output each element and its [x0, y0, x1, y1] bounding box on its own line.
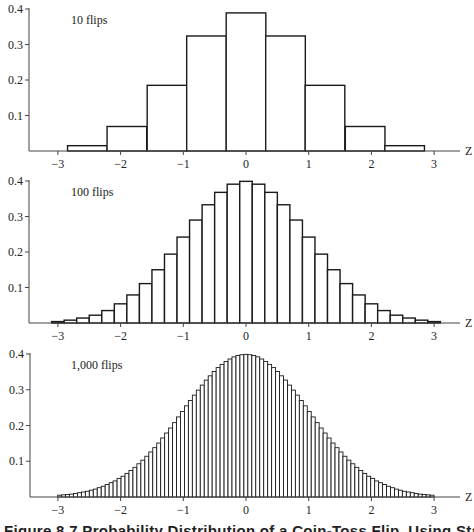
histogram-bar: [232, 357, 236, 497]
histogram-bar: [141, 460, 145, 497]
x-tick-label: 1: [306, 157, 312, 171]
y-tick-label: 0.3: [8, 38, 23, 52]
histogram-bar: [383, 484, 387, 497]
histogram-bar: [319, 428, 323, 497]
histogram-bar: [367, 476, 371, 497]
x-tick-label: 0: [243, 503, 249, 517]
x-axis-label: Z: [465, 144, 472, 158]
x-tick-label: −1: [177, 329, 190, 343]
histogram-bar: [340, 284, 353, 323]
histogram-bar: [244, 354, 248, 497]
histogram-bar: [266, 36, 306, 151]
bars: [52, 181, 441, 323]
histogram-bar: [169, 428, 173, 497]
histogram-bar: [137, 464, 141, 497]
histogram-bar: [240, 355, 244, 497]
y-tick-label: 0.2: [8, 73, 23, 87]
histogram-bar: [157, 443, 161, 497]
histogram-bar: [121, 476, 125, 497]
histogram-bar: [315, 254, 328, 323]
histogram-bar: [265, 192, 278, 323]
histogram-bar: [277, 205, 290, 323]
histogram-bar: [117, 478, 121, 497]
x-tick-label: 2: [368, 157, 374, 171]
histogram-bar: [228, 359, 232, 497]
histogram-bar: [187, 36, 227, 151]
histogram-bar: [256, 357, 260, 497]
histogram-bar: [335, 448, 339, 497]
panel-title: 100 flips: [71, 185, 114, 199]
x-tick-label: 0: [243, 157, 249, 171]
histogram-bar: [114, 304, 127, 323]
histogram-bar: [85, 491, 89, 497]
histogram-bar: [105, 484, 109, 497]
histogram-bar: [290, 220, 303, 323]
histogram-bar: [260, 359, 264, 497]
histogram-bar: [248, 355, 252, 497]
y-tick-label: 0.3: [9, 383, 24, 397]
histogram-bar: [227, 184, 240, 323]
histogram-bar: [102, 311, 115, 323]
histogram-figure: 0.10.20.30.4−3−2−10123Z10 flips0.10.20.3…: [0, 0, 473, 518]
histogram-bar: [410, 493, 414, 497]
histogram-bar: [226, 13, 266, 151]
histogram-bar: [165, 433, 169, 497]
x-axis-label: Z: [465, 316, 472, 330]
x-tick-label: 1: [306, 503, 312, 517]
histogram-bar: [177, 417, 181, 497]
histogram-bar: [284, 380, 288, 497]
histogram-bar: [68, 146, 108, 151]
histogram-bar: [89, 490, 93, 497]
y-tick-label: 0.2: [8, 245, 23, 259]
histogram-bar: [145, 456, 149, 497]
histogram-bar: [212, 372, 216, 497]
histogram-bar: [323, 433, 327, 497]
histogram-bar: [378, 311, 391, 323]
y-tick-label: 0.2: [9, 419, 24, 433]
histogram-bar: [77, 493, 81, 497]
histogram-panel-2: 0.10.20.30.4−3−2−10123Z1,000 flips: [9, 347, 472, 517]
histogram-bar: [328, 270, 341, 323]
histogram-bar: [202, 205, 215, 323]
x-tick-label: 3: [431, 329, 437, 343]
histogram-bar: [109, 483, 113, 497]
histogram-bar: [164, 254, 177, 323]
histogram-bar: [133, 467, 137, 497]
histogram-bar: [180, 412, 184, 497]
histogram-bar: [353, 295, 366, 323]
histogram-bar: [302, 237, 315, 323]
histogram-bar: [236, 355, 240, 497]
histogram-panel-1: 0.10.20.30.4−3−2−10123Z100 flips: [8, 174, 472, 343]
figure-caption: Figure 8.7 Probability Distribution of a…: [4, 519, 474, 532]
figure-caption-text: Figure 8.7 Probability Distribution of a…: [4, 523, 474, 532]
histogram-bar: [139, 284, 152, 323]
histogram-bar: [339, 452, 343, 497]
histogram-bar: [379, 483, 383, 497]
histogram-bar: [303, 406, 307, 497]
y-tick-label: 0.1: [8, 281, 23, 295]
histogram-bar: [311, 417, 315, 497]
histogram-bar: [391, 488, 395, 497]
histogram-bar: [276, 372, 280, 497]
histogram-bar: [406, 492, 410, 497]
bars: [68, 13, 425, 151]
x-tick-label: −3: [52, 329, 65, 343]
bars: [58, 354, 434, 497]
histogram-bar: [252, 184, 265, 323]
histogram-bar: [208, 376, 212, 497]
histogram-bar: [355, 467, 359, 497]
x-tick-label: −2: [114, 157, 127, 171]
histogram-bar: [107, 127, 147, 152]
histogram-bar: [295, 395, 299, 497]
histogram-bar: [299, 400, 303, 497]
histogram-bar: [173, 423, 177, 497]
x-tick-label: −3: [52, 503, 65, 517]
histogram-bar: [365, 304, 378, 323]
y-tick-label: 0.4: [9, 347, 24, 361]
histogram-bar: [73, 493, 77, 497]
histogram-bar: [101, 486, 105, 497]
x-tick-label: 1: [306, 329, 312, 343]
histogram-bar: [291, 390, 295, 497]
histogram-bar: [127, 295, 140, 323]
